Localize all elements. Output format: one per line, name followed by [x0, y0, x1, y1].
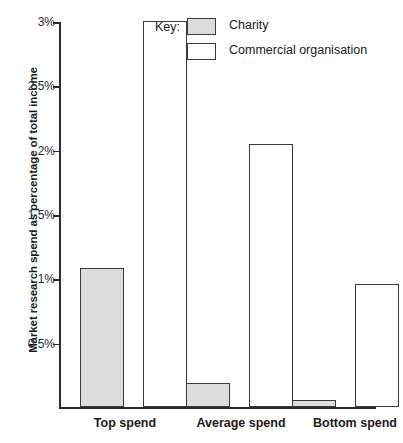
plot-area: 3% 2.5% 2% 1.5% 1% 0.5% [59, 22, 375, 408]
legend-title: Key: [155, 20, 180, 34]
bar-commercial-top-spend [143, 21, 187, 407]
bar-commercial-bottom-spend [355, 284, 399, 406]
bar-commercial-average-spend [249, 144, 293, 406]
legend: Key: Charity Commercial organisation [155, 17, 379, 65]
legend-swatch-charity [187, 18, 216, 35]
y-tick-label: 3% [38, 15, 55, 29]
legend-swatch-commercial [187, 43, 216, 60]
y-tick-label: 1.5% [28, 208, 55, 222]
bar-charity-bottom-spend [292, 400, 336, 406]
y-axis-line [59, 22, 61, 409]
y-tick-label: 2% [38, 144, 55, 158]
y-tick-label: 0.5% [28, 337, 55, 351]
bar-charity-average-spend [186, 383, 230, 406]
bar-charity-top-spend [80, 268, 124, 407]
y-tick-label: 2.5% [28, 79, 55, 93]
x-axis-line [59, 407, 376, 409]
legend-label-charity: Charity [229, 18, 269, 32]
legend-label-commercial: Commercial organisation [229, 43, 367, 57]
y-tick-label: 1% [38, 272, 55, 286]
x-label-bottom-spend: Bottom spend [277, 416, 403, 430]
